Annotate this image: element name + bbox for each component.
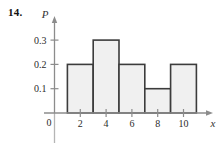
- histogram-bars: [67, 40, 196, 113]
- x-axis-tick-label: 6: [129, 118, 134, 129]
- y-axis-arrowhead: [52, 16, 57, 23]
- x-axis-arrowhead: [206, 110, 213, 115]
- histogram-bar: [171, 64, 197, 113]
- y-axis-tick-label: 0.3: [34, 35, 47, 46]
- x-axis-tick-label: 4: [104, 118, 109, 129]
- y-axis-tick-label: 0.2: [34, 59, 47, 70]
- y-axis-variable-label: P: [41, 8, 49, 20]
- histogram-figure: 14. 0.10.20.3 246810 0 P x: [0, 0, 224, 145]
- x-axis-tick-label: 2: [78, 118, 83, 129]
- histogram-bar: [93, 40, 119, 113]
- y-axis-tick-label: 0.1: [34, 83, 47, 94]
- x-axis-tick-labels: 246810: [78, 118, 189, 129]
- x-axis-tick-label: 10: [179, 118, 189, 129]
- y-axis-tick-labels: 0.10.20.3: [34, 35, 47, 95]
- x-axis-tick-label: 8: [155, 118, 160, 129]
- histogram-plot: 0.10.20.3 246810 0 P x: [0, 0, 224, 145]
- histogram-bar: [67, 64, 93, 113]
- origin-label: 0: [47, 117, 52, 128]
- histogram-bar: [119, 64, 145, 113]
- x-axis-variable-label: x: [210, 117, 216, 129]
